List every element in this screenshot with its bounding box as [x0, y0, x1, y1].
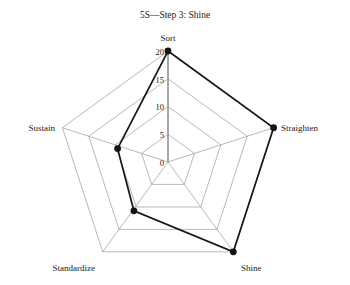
- tick-label-5: 5: [160, 130, 164, 140]
- axis-label-sort: Sort: [160, 33, 176, 43]
- axis-label-standardize: Standardize: [53, 263, 95, 273]
- axis-label-sustain: Sustain: [28, 123, 55, 133]
- tick-label-0: 0: [160, 158, 164, 168]
- tick-label-10: 10: [156, 102, 165, 112]
- tick-label-20: 20: [156, 47, 165, 57]
- data-point-sort: [165, 48, 172, 55]
- data-point-shine: [230, 248, 237, 255]
- axis-label-shine: Shine: [241, 263, 262, 273]
- radar-chart-figure: 5S—Step 3: Shine 0 5 10 15 20 Sort Strai…: [0, 0, 350, 285]
- chart-title: 5S—Step 3: Shine: [140, 10, 210, 20]
- axis-label-straighten: Straighten: [281, 123, 318, 133]
- data-point-sustain: [114, 145, 121, 152]
- data-point-straighten: [270, 124, 277, 131]
- radar-chart-svg: 5S—Step 3: Shine 0 5 10 15 20 Sort Strai…: [0, 0, 350, 285]
- tick-label-15: 15: [156, 75, 165, 85]
- data-point-standardize: [131, 207, 138, 214]
